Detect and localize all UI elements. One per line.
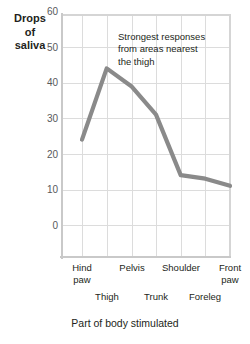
x-tick-label-front-paw-line-2: paw (203, 274, 250, 286)
x-tick-label-pelvis-line-1: Pelvis (105, 262, 159, 274)
chart-figure: Drops of saliva 0 10 20 30 40 50 60 (0, 0, 250, 344)
x-tick-label-group: Hind paw Pelvis Shoulder Front paw Thigh… (0, 0, 250, 344)
x-tick-label-hind-paw: Hind paw (55, 262, 109, 285)
x-tick-label-thigh: Thigh (80, 291, 134, 303)
x-tick-label-trunk-line-1: Trunk (129, 291, 183, 303)
x-tick-label-hind-paw-line-2: paw (55, 274, 109, 286)
x-tick-label-front-paw: Front paw (203, 262, 250, 285)
x-tick-label-shoulder-line-1: Shoulder (154, 262, 208, 274)
x-tick-label-shoulder: Shoulder (154, 262, 208, 274)
x-tick-label-pelvis: Pelvis (105, 262, 159, 274)
x-axis-title: Part of body stimulated (0, 317, 250, 329)
x-tick-label-foreleg: Foreleg (178, 291, 232, 303)
x-tick-label-trunk: Trunk (129, 291, 183, 303)
x-tick-label-front-paw-line-1: Front (203, 262, 250, 274)
x-tick-label-thigh-line-1: Thigh (80, 291, 134, 303)
x-tick-label-hind-paw-line-1: Hind (55, 262, 109, 274)
x-tick-label-foreleg-line-1: Foreleg (178, 291, 232, 303)
